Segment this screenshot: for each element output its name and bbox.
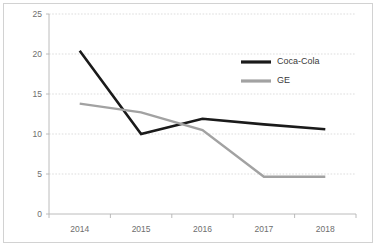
axis-ticks xyxy=(46,14,356,218)
series-line-ge xyxy=(80,104,326,177)
line-chart-canvas: 0510152025 20142015201620172018 Coca-Col… xyxy=(4,4,372,242)
legend-label-coca-cola: Coca-Cola xyxy=(277,56,320,66)
legend-label-ge: GE xyxy=(277,75,290,85)
x-tick-label-2018: 2018 xyxy=(316,224,335,234)
y-tick-label-20: 20 xyxy=(33,49,43,59)
y-tick-label-25: 25 xyxy=(33,9,43,19)
x-tick-label-2014: 2014 xyxy=(70,224,89,234)
data-series xyxy=(80,51,326,177)
y-tick-label-10: 10 xyxy=(33,129,43,139)
chart-frame: 0510152025 20142015201620172018 Coca-Col… xyxy=(3,3,373,243)
x-tick-label-2015: 2015 xyxy=(132,224,151,234)
x-tick-label-2017: 2017 xyxy=(254,224,273,234)
chart-screenshot: 0510152025 20142015201620172018 Coca-Col… xyxy=(0,0,376,246)
x-tick-label-2016: 2016 xyxy=(193,224,212,234)
chart-legend: Coca-ColaGE xyxy=(241,56,320,85)
y-tick-label-15: 15 xyxy=(33,89,43,99)
gridlines xyxy=(49,14,356,174)
y-tick-label-5: 5 xyxy=(37,169,42,179)
x-axis-tick-labels: 20142015201620172018 xyxy=(70,224,335,234)
y-axis-tick-labels: 0510152025 xyxy=(33,9,43,219)
y-tick-label-0: 0 xyxy=(37,209,42,219)
